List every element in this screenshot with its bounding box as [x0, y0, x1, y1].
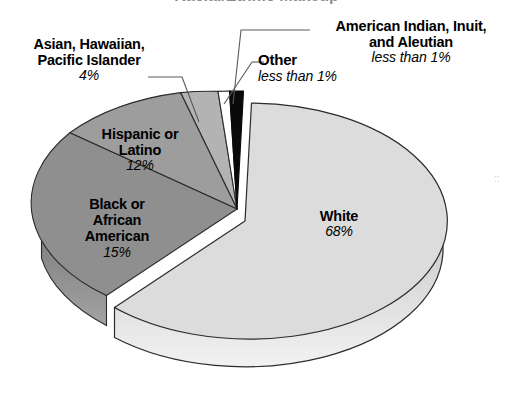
label-black-name: Black or African American [57, 196, 177, 245]
label-white-percent: 68% [296, 224, 382, 240]
label-other-percent: less than 1% [258, 69, 378, 85]
label-black-percent: 15% [57, 245, 177, 261]
chart-canvas: Racial/Ethnic Makeup [0, 0, 513, 407]
label-white: White 68% [296, 208, 382, 240]
label-hispanic-percent: 12% [80, 158, 200, 174]
label-other-name: Other [258, 52, 378, 69]
label-white-name: White [296, 208, 382, 224]
label-asian-percent: 4% [6, 68, 172, 84]
label-hispanic-name: Hispanic or Latino [80, 126, 200, 158]
label-asian-hawaiian-pacific-islander: Asian, Hawaiian, Pacific Islander 4% [6, 36, 172, 84]
label-other: Other less than 1% [258, 52, 378, 84]
scan-artifact-speck: :: [494, 176, 498, 188]
label-black-or-african-american: Black or African American 15% [57, 196, 177, 260]
label-hispanic-or-latino: Hispanic or Latino 12% [80, 126, 200, 174]
label-asian-name: Asian, Hawaiian, Pacific Islander [6, 36, 172, 68]
label-american-indian-name: American Indian, Inuit, and Aleutian [312, 18, 510, 50]
